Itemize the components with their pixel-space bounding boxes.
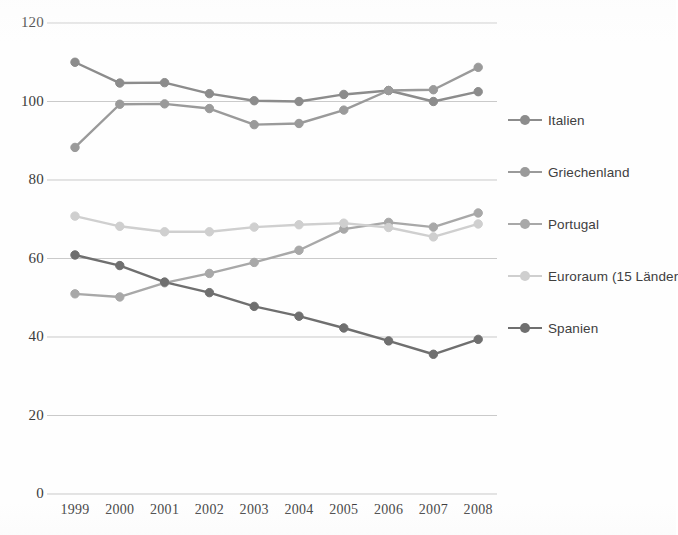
data-point: [205, 89, 213, 97]
x-axis-label: 2005: [321, 502, 367, 518]
data-point: [71, 58, 79, 66]
data-point: [295, 246, 303, 254]
data-point: [384, 223, 392, 231]
data-point: [429, 350, 437, 358]
y-axis-label: 80: [0, 171, 44, 188]
data-point: [160, 278, 168, 286]
series-lines-group: [75, 62, 478, 354]
x-axis-label: 2001: [142, 502, 188, 518]
legend-item[interactable]: Griechenland: [508, 160, 678, 184]
data-point: [205, 104, 213, 112]
data-point: [340, 324, 348, 332]
data-point: [71, 143, 79, 151]
legend-marker-icon: [508, 217, 542, 231]
series-line-5: [75, 255, 478, 354]
x-axis-label: 2008: [455, 502, 501, 518]
legend-marker-icon: [508, 165, 542, 179]
data-point: [384, 337, 392, 345]
data-point: [205, 269, 213, 277]
legend-marker-icon: [508, 113, 542, 127]
data-point: [474, 335, 482, 343]
x-axis-label: 2000: [97, 502, 143, 518]
data-point: [250, 223, 258, 231]
x-axis-label: 2002: [186, 502, 232, 518]
legend-item-label: Griechenland: [548, 165, 630, 180]
data-point: [160, 228, 168, 236]
data-point: [116, 100, 124, 108]
data-point: [429, 97, 437, 105]
data-point: [295, 119, 303, 127]
data-point: [429, 86, 437, 94]
legend-item[interactable]: Euroraum (15 Länder: [508, 264, 678, 288]
data-point: [71, 251, 79, 259]
series-line-1: [75, 62, 478, 101]
data-point: [71, 212, 79, 220]
x-axis-label: 2003: [231, 502, 277, 518]
data-point: [384, 86, 392, 94]
data-point: [116, 222, 124, 230]
data-point: [71, 290, 79, 298]
legend-item-label: Italien: [548, 113, 585, 128]
y-axis-label: 20: [0, 407, 44, 424]
data-point: [295, 312, 303, 320]
data-point: [429, 223, 437, 231]
data-point: [474, 63, 482, 71]
data-point: [250, 97, 258, 105]
series-line-2: [75, 67, 478, 147]
data-point: [160, 100, 168, 108]
data-point: [116, 79, 124, 87]
data-point: [205, 228, 213, 236]
data-point: [474, 220, 482, 228]
data-point: [250, 258, 258, 266]
data-point: [116, 293, 124, 301]
y-axis-label: 100: [0, 93, 44, 110]
data-point: [116, 261, 124, 269]
y-axis-label: 120: [0, 14, 44, 31]
legend-item-label: Portugal: [548, 217, 599, 232]
x-axis-label: 1999: [52, 502, 98, 518]
data-point: [250, 302, 258, 310]
x-axis-label: 2004: [276, 502, 322, 518]
y-axis-label: 60: [0, 250, 44, 267]
legend-item[interactable]: Spanien: [508, 316, 678, 340]
data-point: [429, 233, 437, 241]
data-point: [474, 209, 482, 217]
data-point: [295, 221, 303, 229]
legend-item[interactable]: Italien: [508, 108, 678, 132]
legend-item-label: Euroraum (15 Länder: [548, 269, 678, 284]
legend-item-label: Spanien: [548, 321, 598, 336]
x-axis-label: 2007: [410, 502, 456, 518]
data-point: [340, 219, 348, 227]
y-axis-label: 40: [0, 328, 44, 345]
data-point: [295, 97, 303, 105]
x-axis-label: 2006: [366, 502, 412, 518]
data-point: [340, 106, 348, 114]
legend-marker-icon: [508, 269, 542, 283]
data-point: [205, 288, 213, 296]
chart-legend: ItalienGriechenlandPortugalEuroraum (15 …: [508, 108, 678, 368]
legend-item[interactable]: Portugal: [508, 212, 678, 236]
legend-marker-icon: [508, 321, 542, 335]
data-point: [160, 78, 168, 86]
data-point: [250, 120, 258, 128]
data-point: [340, 90, 348, 98]
y-axis-label: 0: [0, 485, 44, 502]
data-point: [474, 87, 482, 95]
